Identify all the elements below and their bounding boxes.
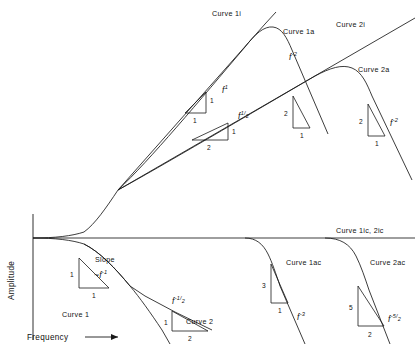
x-axis-label: Frequency	[27, 333, 69, 342]
label-curve-1: Curve 1	[62, 310, 89, 319]
f1-exponent: 1	[225, 84, 228, 90]
tri-fm2-right-run: 1	[375, 140, 379, 147]
tri-fmhalf-rise: 1	[164, 319, 168, 326]
f-half-den: 2	[245, 113, 249, 119]
slope-triangle-f-minus3	[271, 264, 288, 303]
tri-fm2-left-rise: 2	[284, 110, 288, 117]
tri-f1-run: 1	[193, 117, 197, 124]
tri-fmhalf-run: 2	[188, 335, 192, 342]
label-curve-2a: Curve 2a	[358, 65, 390, 74]
curve-1ac-path	[245, 238, 305, 344]
label-slope-word: Slope	[95, 255, 115, 264]
label-curve-1i: Curve 1i	[212, 9, 241, 18]
label-power-f1: f1	[222, 84, 228, 95]
rise-branch	[84, 190, 118, 232]
corner-blend-upper	[33, 232, 84, 238]
label-curve-1ic-2ic: Curve 1ic, 2ic	[336, 226, 384, 235]
tri-fm52-rise: 5	[349, 304, 353, 311]
label-curve-2i: Curve 2i	[336, 20, 365, 29]
tri-fm2-left-run: 1	[300, 132, 304, 139]
label-curve-1ac: Curve 1ac	[286, 258, 322, 267]
tri-fm2-right-rise: 2	[359, 118, 363, 125]
slope-triangle-f-minus2-left	[293, 96, 310, 128]
label-power-f-minus3: f-3	[297, 311, 306, 322]
slope-triangle-f1	[185, 92, 206, 113]
tri-fhalf-run: 2	[207, 144, 211, 151]
label-power-f-half: f1/2	[238, 110, 249, 121]
fmhalf-den: 2	[181, 298, 185, 304]
label-curve-2ac: Curve 2ac	[370, 258, 406, 267]
fm2-left-exponent: -2	[292, 51, 298, 57]
label-power-f-minus5-2: f-5/2	[388, 313, 401, 324]
label-power-f-minus-half: f-1/2	[172, 295, 185, 306]
tri-fm1-run: 1	[92, 292, 96, 299]
fm1-exponent: -1	[102, 269, 108, 275]
tri-fhalf-rise: 1	[232, 128, 236, 135]
tri-fm3-rise: 3	[262, 282, 266, 289]
figure-canvas: Curve 1i Curve 1a Curve 2i Curve 2a Curv…	[0, 0, 417, 352]
slope-triangle-f-minus2-right	[368, 104, 385, 136]
tri-f1-rise: 1	[210, 97, 214, 104]
tri-fm52-run: 2	[368, 331, 372, 338]
label-curve-1a: Curve 1a	[283, 27, 315, 36]
tri-fm1-rise: 1	[70, 271, 74, 278]
curve-2ac-path	[325, 238, 390, 344]
fm52-den: 2	[397, 316, 401, 322]
curves-svg: Curve 1i Curve 1a Curve 2i Curve 2a Curv…	[0, 0, 417, 352]
label-curve-2: Curve 2	[186, 317, 213, 326]
tri-fm3-run: 1	[278, 307, 282, 314]
corner-blend-lower	[33, 238, 84, 244]
slope-triangle-f-minus5-2	[358, 286, 384, 326]
fm2-right-exponent: -2	[393, 117, 399, 123]
label-power-f-minus1: ~f-1	[94, 269, 107, 280]
y-axis-label: Amplitude	[7, 261, 16, 300]
frequency-arrow-head	[111, 334, 118, 340]
fm3-exponent: -3	[300, 311, 306, 317]
label-power-f-minus2-right: f-2	[390, 117, 399, 128]
